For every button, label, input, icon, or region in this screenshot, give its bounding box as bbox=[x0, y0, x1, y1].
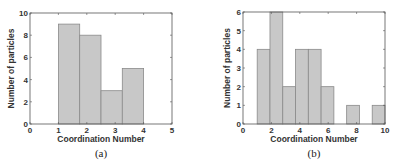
y-tick-label: 0 bbox=[237, 120, 242, 129]
histogram-bar bbox=[372, 105, 385, 124]
y-tick-label: 0 bbox=[24, 120, 29, 129]
histogram-bar bbox=[122, 69, 143, 125]
panel-label: (a) bbox=[95, 147, 108, 160]
chart-b: 02468100123456Coordination NumberNumber … bbox=[200, 0, 400, 164]
y-tick-label: 10 bbox=[19, 9, 28, 18]
y-tick-label: 4 bbox=[24, 76, 29, 85]
bars bbox=[257, 12, 385, 124]
histogram-bar bbox=[257, 49, 270, 124]
y-tick-label: 5 bbox=[237, 27, 242, 36]
y-tick-label: 4 bbox=[237, 45, 242, 54]
histogram-bar bbox=[101, 91, 122, 124]
histogram-bar bbox=[80, 35, 101, 124]
histogram-b: 02468100123456Coordination NumberNumber … bbox=[200, 0, 401, 164]
y-tick-label: 3 bbox=[237, 64, 242, 73]
histogram-bar bbox=[321, 87, 334, 124]
y-axis-label: Number of particles bbox=[222, 28, 232, 108]
x-axis-label: Coordination Number bbox=[57, 134, 145, 144]
histogram-bar bbox=[296, 49, 309, 124]
x-tick-label: 5 bbox=[170, 126, 175, 135]
y-tick-label: 6 bbox=[237, 8, 242, 17]
chart-a: 0123450246810Coordination NumberNumber o… bbox=[0, 0, 200, 164]
y-tick-label: 1 bbox=[237, 101, 242, 110]
histogram-bar bbox=[308, 49, 321, 124]
x-tick-label: 10 bbox=[381, 126, 390, 135]
x-axis-label: Coordination Number bbox=[270, 134, 358, 144]
y-axis-label: Number of particles bbox=[6, 28, 16, 108]
histogram-bar bbox=[283, 87, 296, 124]
y-tick-label: 2 bbox=[24, 98, 29, 107]
x-tick-label: 0 bbox=[241, 126, 246, 135]
y-tick-label: 6 bbox=[24, 53, 29, 62]
y-tick-label: 8 bbox=[24, 31, 29, 40]
histogram-bar bbox=[270, 12, 283, 124]
panel-label: (b) bbox=[308, 147, 321, 160]
bars bbox=[58, 24, 143, 124]
y-tick-label: 2 bbox=[237, 83, 242, 92]
histogram-bar bbox=[58, 24, 79, 124]
histogram-bar bbox=[347, 105, 360, 124]
x-tick-label: 0 bbox=[28, 126, 33, 135]
histogram-a: 0123450246810Coordination NumberNumber o… bbox=[0, 0, 200, 164]
